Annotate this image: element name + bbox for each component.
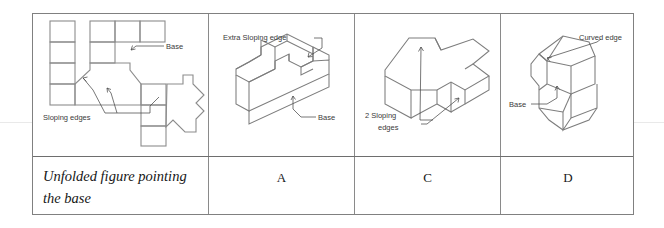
option-c-annotation-sloping-edges-line1: 2 Sloping <box>365 111 396 120</box>
option-a-solid-drawing: Extra Sloping edge Base <box>209 14 354 156</box>
net-left-strip <box>50 21 75 105</box>
net-top-band <box>90 21 165 63</box>
option-c-leader-lines <box>419 47 460 124</box>
comparison-table: Base Sloping edges <box>32 13 634 215</box>
option-d-body <box>531 36 597 130</box>
figure-cell-net: Base Sloping edges <box>33 14 208 156</box>
figure-cell-option-c: 2 Sloping edges <box>355 14 500 156</box>
label-cell-option-d: D <box>501 156 635 216</box>
net-right-column <box>141 84 166 146</box>
net-diagonal-flap <box>166 75 204 132</box>
net-drawing: Base Sloping edges <box>33 14 208 156</box>
option-a-leader-lines <box>291 38 322 117</box>
net-annotation-sloping-edges: Sloping edges <box>43 113 91 122</box>
option-a-body <box>236 34 329 124</box>
label-cell-option-c: C <box>355 156 500 216</box>
option-d-annotation-curved-edge: Curved edge <box>579 33 622 42</box>
answer-label-c: C <box>355 170 500 186</box>
option-c-annotation-sloping-edges-line2: edges <box>378 123 399 132</box>
option-c-body <box>385 38 489 118</box>
option-d-solid-drawing: Curved edge Base <box>501 14 635 156</box>
option-c-solid-drawing: 2 Sloping edges <box>355 14 500 156</box>
net-base-face <box>75 63 141 105</box>
option-d-leader-lines <box>531 39 601 104</box>
label-cell-caption: Unfolded figure pointing the base <box>33 156 208 216</box>
option-a-annotation-extra-sloping-edge: Extra Sloping edge <box>223 33 286 42</box>
figure-cell-option-d: Curved edge Base <box>501 14 635 156</box>
net-annotation-base: Base <box>166 42 183 51</box>
caption-text: Unfolded figure pointing the base <box>43 165 200 210</box>
figure-cell-option-a: Extra Sloping edge Base <box>209 14 354 156</box>
answer-label-d: D <box>501 170 635 186</box>
net-leader-lines <box>83 46 164 114</box>
worksheet-sheet: Base Sloping edges <box>0 0 664 228</box>
option-d-annotation-base: Base <box>509 100 526 109</box>
label-cell-option-a: A <box>209 156 354 216</box>
option-a-annotation-base: Base <box>318 113 335 122</box>
answer-label-a: A <box>209 170 354 186</box>
